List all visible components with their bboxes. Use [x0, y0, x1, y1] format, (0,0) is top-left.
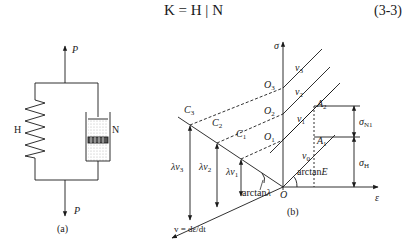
rheology-diagram	[0, 0, 415, 243]
dashpot-label: N	[112, 124, 119, 135]
caption-a: (a)	[57, 223, 68, 234]
lambda-v2-label: λv2	[199, 161, 211, 174]
sigma-axis-label: σ	[274, 40, 279, 51]
angle-lambda-label: arctanλ	[242, 187, 271, 198]
stress-strain-graph	[172, 42, 378, 238]
point-o3: O3	[264, 79, 275, 92]
spring-label: H	[14, 124, 21, 135]
point-o1: O1	[264, 131, 275, 144]
caption-b: (b)	[287, 206, 299, 217]
sigma-n1-label: σN1	[359, 116, 373, 129]
v-axis-label: v = dε/dt	[174, 224, 206, 234]
line-label-v1: v1	[297, 113, 305, 126]
sigma-h-label: σH	[359, 157, 369, 170]
lambda-v3-label: λv3	[171, 161, 183, 174]
line-label-v0: v0	[302, 150, 310, 163]
angle-E-arc	[293, 176, 297, 187]
point-a1: A1	[317, 135, 327, 148]
line-label-v2: v2	[295, 86, 303, 99]
line-label-v3: v3	[295, 62, 303, 75]
point-c1: C1	[236, 128, 246, 141]
point-a2: A2	[317, 98, 327, 111]
spring-icon	[25, 100, 45, 158]
origin-label: O	[280, 189, 287, 200]
force-label-top: P	[72, 44, 78, 55]
dashpot-icon	[86, 112, 110, 180]
epsilon-axis-label: ε	[375, 192, 379, 203]
kelvin-model	[25, 46, 110, 216]
dash-c1-o1	[241, 140, 283, 159]
point-c2: C2	[212, 117, 222, 130]
angle-e-label: arctanE	[297, 166, 328, 177]
point-o2: O2	[264, 105, 275, 118]
lambda-v1-label: λv1	[226, 166, 238, 179]
line-v1	[283, 83, 340, 140]
force-label-bottom: P	[74, 205, 80, 216]
point-c3: C3	[184, 104, 194, 117]
